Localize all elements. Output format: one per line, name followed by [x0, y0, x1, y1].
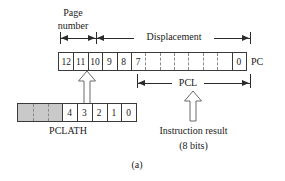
register-bit-divider	[217, 53, 218, 70]
register-bit-divider	[107, 104, 108, 121]
register-bit-divider	[145, 53, 146, 70]
register-bit-cell	[33, 104, 48, 121]
instruction-result-label-line2: (8 bits)	[139, 141, 248, 151]
register-bit-cell-10: 10	[88, 53, 102, 70]
register-bit-divider	[92, 104, 93, 121]
register-bit-divider	[131, 53, 132, 70]
page-number-span-arrowhead-right	[88, 35, 95, 41]
register-bit-cell-0: 0	[232, 53, 246, 70]
register-bit-divider	[73, 53, 74, 70]
register-bit-cell	[203, 53, 217, 70]
register-bit-divider	[232, 53, 233, 70]
pclath-register: 43210	[17, 103, 137, 122]
page-number-label-line2: number	[47, 21, 99, 31]
page-number-span-arrowhead-left	[61, 35, 68, 41]
register-bit-cell-4: 4	[62, 104, 77, 121]
pc-register: 1211109870	[58, 52, 247, 71]
register-bit-cell	[145, 53, 159, 70]
register-bit-cell-2: 2	[92, 104, 107, 121]
register-bit-cell	[217, 53, 231, 70]
register-bit-divider	[203, 53, 204, 70]
register-bit-cell-7: 7	[131, 53, 145, 70]
register-bit-cell	[48, 104, 63, 121]
register-bit-cell-3: 3	[77, 104, 92, 121]
register-bit-divider	[160, 53, 161, 70]
pcl-span-right-tick	[250, 74, 251, 88]
pcl-span-arrowhead-right	[242, 80, 249, 86]
register-bit-divider	[33, 104, 34, 121]
pc-register-label: PC	[251, 57, 263, 67]
register-bit-cell	[160, 53, 174, 70]
instruction-result-label-line1: Instruction result	[139, 126, 248, 136]
figure-canvas: Page number Displacement 1211109870 PC P…	[0, 0, 285, 181]
register-bit-cell	[188, 53, 202, 70]
register-bit-divider	[62, 104, 63, 121]
register-bit-divider	[117, 53, 118, 70]
register-bit-cell	[174, 53, 188, 70]
register-bit-divider	[88, 53, 89, 70]
register-bit-cell-12: 12	[59, 53, 73, 70]
register-bit-divider	[48, 104, 49, 121]
register-bit-cell-0: 0	[121, 104, 136, 121]
register-bit-divider	[102, 53, 103, 70]
register-bit-cell	[18, 104, 33, 121]
displacement-label: Displacement	[134, 30, 214, 44]
instruction-result-block-arrow	[183, 90, 203, 122]
register-bit-divider	[188, 53, 189, 70]
page-number-label-line1: Page	[51, 8, 95, 18]
register-bit-cell-11: 11	[73, 53, 87, 70]
register-bit-cell-8: 8	[117, 53, 131, 70]
register-bit-divider	[121, 104, 122, 121]
pcl-span-arrowhead-left	[138, 80, 145, 86]
displacement-span-right-tick	[250, 32, 251, 44]
figure-caption: (a)	[122, 160, 152, 170]
register-bit-divider	[174, 53, 175, 70]
displacement-span-arrowhead-left	[97, 35, 104, 41]
displacement-span-arrowhead-right	[242, 35, 249, 41]
register-bit-cell-1: 1	[107, 104, 122, 121]
register-bit-cell-9: 9	[102, 53, 116, 70]
pclath-to-pc-block-arrow	[77, 70, 97, 106]
register-bit-divider	[77, 104, 78, 121]
pclath-register-label: PCLATH	[38, 126, 98, 136]
pcl-label: PCL	[172, 76, 204, 90]
